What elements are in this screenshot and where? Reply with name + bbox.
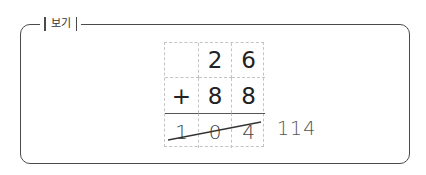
example-box-title: 보기 — [40, 15, 81, 33]
grid-cell-r1c2: 2 — [199, 43, 232, 78]
title-right-tick — [76, 17, 78, 31]
grid-cell-r1c3: 6 — [232, 43, 265, 78]
grid-cell-operator: + — [165, 78, 199, 113]
corrected-answer: 114 — [277, 117, 316, 139]
grid-cell-r1c1 — [165, 43, 199, 78]
grid-cell-r2c2: 8 — [199, 78, 232, 113]
title-label: 보기 — [46, 15, 76, 33]
grid-cell-r2c3: 8 — [232, 78, 265, 113]
